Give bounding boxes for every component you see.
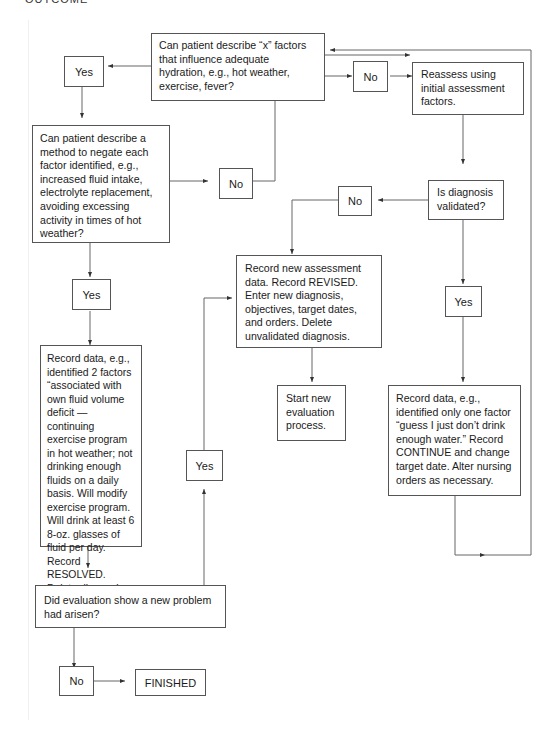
start-new-evaluation-box: Start new evaluation process. [277,385,346,441]
new-problem-no-label: No [59,666,94,696]
continue-record-box: Record data, e.g., identified only one f… [388,385,521,496]
validated-no-label: No [338,186,372,216]
diagnosis-validated-box: Is diagnosis validated? [428,180,504,220]
negate-method-question-box: Can patient describe a method to negate … [32,125,170,243]
revised-record-box: Record new assessment data. Record REVIS… [236,255,382,348]
new-problem-yes-label: Yes [186,450,223,481]
new-problem-question-box: Did evaluation show a new problem had ar… [35,585,226,628]
factors-question-box: Can patient describe “x” factors that in… [151,33,325,101]
reassess-box: Reassess using initial assessment factor… [412,62,524,115]
negate-no-label: No [219,168,253,199]
factors-no-label: No [353,61,388,92]
negate-yes-label: Yes [72,279,111,310]
resolved-record-box: Record data, e.g., identified 2 factors … [40,345,142,547]
factors-yes-label: Yes [64,56,104,87]
finished-box: FINISHED [135,669,206,696]
validated-yes-label: Yes [445,286,482,317]
